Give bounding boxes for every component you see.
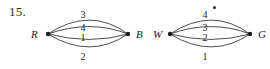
multigraph-left-edges <box>30 0 150 69</box>
vertex-node-start <box>46 32 50 36</box>
edge-label-outer-top: 3 <box>76 10 90 20</box>
multigraph-right: W G 4 3 2 1 <box>152 0 270 69</box>
edge-label-inner-bottom: 1 <box>76 33 90 43</box>
vertex-node-end <box>126 32 130 36</box>
vertex-label-end: G <box>258 29 266 40</box>
vertex-node-end <box>248 32 252 36</box>
ink-speck <box>213 6 216 9</box>
exercise-number: 15. <box>9 5 26 18</box>
figure-canvas: 15. R B 3 4 1 2 <box>0 0 270 69</box>
edge-label-outer-bottom: 1 <box>198 52 212 62</box>
vertex-label-start: R <box>31 29 38 40</box>
edge-label-outer-bottom: 2 <box>76 52 90 62</box>
vertex-node-start <box>168 32 172 36</box>
vertex-label-start: W <box>153 29 162 40</box>
edge-label-outer-top: 4 <box>198 10 212 20</box>
edge-label-inner-bottom: 2 <box>198 33 212 43</box>
multigraph-left: R B 3 4 1 2 <box>30 0 150 69</box>
vertex-label-end: B <box>136 29 143 40</box>
